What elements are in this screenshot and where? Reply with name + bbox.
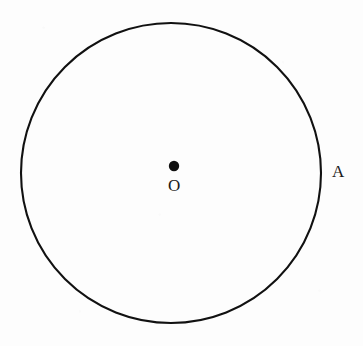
center-point-dot: [169, 161, 179, 171]
circle-diagram: O A: [0, 0, 363, 346]
center-label-o: O: [168, 177, 180, 194]
circle-outline: [21, 23, 321, 323]
diagram-canvas: [0, 0, 363, 346]
point-label-a: A: [332, 163, 344, 180]
